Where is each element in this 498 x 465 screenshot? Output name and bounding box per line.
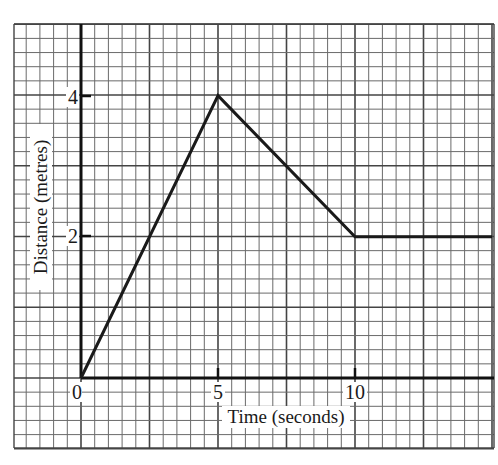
x-tick-label-0: 0 xyxy=(72,381,82,403)
y-axis-title: Distance (metres) xyxy=(30,140,52,275)
x-tick-label-5: 5 xyxy=(213,381,223,403)
x-axis-title: Time (seconds) xyxy=(228,406,345,428)
x-tick-label-10: 10 xyxy=(345,381,365,403)
y-tick-label-4: 4 xyxy=(68,86,78,108)
y-tick-label-2: 2 xyxy=(68,225,78,247)
distance-time-graph: 4 2 0 5 10 Time (seconds) Distance (metr… xyxy=(0,0,498,465)
